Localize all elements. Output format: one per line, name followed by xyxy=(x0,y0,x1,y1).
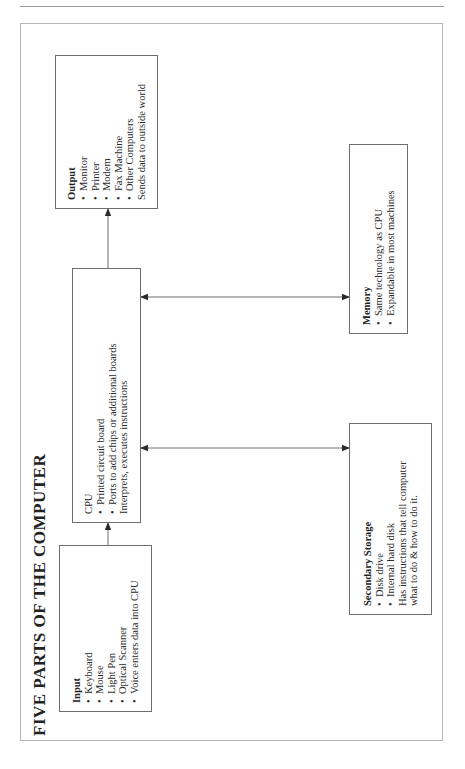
list-item: •Light Pen xyxy=(106,554,118,703)
output-box: Output •Monitor •Printer •Modem •Fax Mac… xyxy=(55,55,158,209)
input-list: •Keyboard •Mouse •Light Pen •Optical Sca… xyxy=(83,554,141,703)
memory-box-title: Memory xyxy=(361,153,373,325)
input-box: Input •Keyboard •Mouse •Light Pen •Optic… xyxy=(59,545,152,712)
bullet-icon: • xyxy=(90,191,102,200)
bullet-icon: • xyxy=(373,316,385,325)
list-item: •Internal hard disk xyxy=(385,432,397,606)
list-item: •Printed circuit board xyxy=(95,277,107,514)
cpu-note: Interprets, executes instructions xyxy=(118,277,130,514)
bullet-icon: • xyxy=(124,191,136,200)
list-item: •Expandable in most machines xyxy=(385,153,397,325)
bullet-icon: • xyxy=(95,505,107,514)
secondary-storage-box: Secondary Storage •Disk drive •Internal … xyxy=(349,423,432,615)
list-item: •Monitor xyxy=(78,64,90,200)
bullet-icon: • xyxy=(374,597,386,606)
cpu-list: •Printed circuit board •Ports to add chi… xyxy=(95,277,118,514)
secondary-storage-list: •Disk drive •Internal hard disk xyxy=(374,432,397,606)
list-item: •Printer xyxy=(90,64,102,200)
top-rule xyxy=(20,6,444,7)
memory-box: Memory •Same technology as CPU •Expandab… xyxy=(349,144,408,334)
bullet-icon: • xyxy=(101,191,113,200)
output-list: •Monitor •Printer •Modem •Fax Machine •O… xyxy=(78,64,136,200)
output-box-title: Output xyxy=(66,64,78,200)
bullet-icon: • xyxy=(107,505,119,514)
list-item: •Ports to add chips or additional boards xyxy=(107,277,119,514)
cpu-box: CPU •Printed circuit board •Ports to add… xyxy=(72,268,141,523)
bullet-icon: • xyxy=(83,694,95,703)
list-item: •Voice enters data into CPU xyxy=(129,554,141,703)
list-item: •Same technology as CPU xyxy=(373,153,385,325)
bullet-icon: • xyxy=(117,694,129,703)
list-item: •Modem xyxy=(101,64,113,200)
list-item: •Disk drive xyxy=(374,432,386,606)
bullet-icon: • xyxy=(78,191,90,200)
diagram-canvas: FIVE PARTS OF THE COMPUTER Input •Keyboa… xyxy=(20,23,443,741)
secondary-storage-note-2: what to do & how to do it. xyxy=(408,432,420,606)
secondary-storage-box-title: Secondary Storage xyxy=(362,432,374,606)
bullet-icon: • xyxy=(113,191,125,200)
input-box-title: Input xyxy=(71,554,83,703)
bullet-icon: • xyxy=(94,694,106,703)
bullet-icon: • xyxy=(385,597,397,606)
bullet-icon: • xyxy=(106,694,118,703)
list-item: •Other Computers xyxy=(124,64,136,200)
output-note: Sends data to outside world xyxy=(136,64,148,200)
list-item: •Keyboard xyxy=(83,554,95,703)
bullet-icon: • xyxy=(385,316,397,325)
cpu-box-title: CPU xyxy=(83,277,95,514)
secondary-storage-note-1: Has instructions that tell computer xyxy=(397,432,409,606)
list-item: •Fax Machine xyxy=(113,64,125,200)
list-item: •Mouse xyxy=(94,554,106,703)
memory-list: •Same technology as CPU •Expandable in m… xyxy=(373,153,396,325)
list-item: •Optical Scanner xyxy=(117,554,129,703)
bullet-icon: • xyxy=(129,694,141,703)
